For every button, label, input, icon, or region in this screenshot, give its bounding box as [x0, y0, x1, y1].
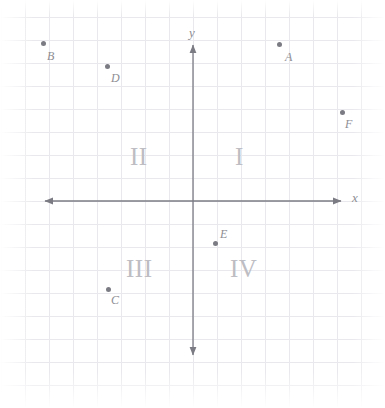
plot-point-c [106, 287, 111, 292]
axes [0, 0, 385, 408]
quadrant-label-iii: III [126, 256, 152, 281]
plot-point-label-c: C [111, 294, 119, 306]
plot-point-label-e: E [220, 228, 227, 240]
plot-point-f [340, 110, 345, 115]
coordinate-plane-figure: x y I II III IV ABCDEF [0, 0, 385, 408]
plot-point-b [41, 41, 46, 46]
plot-point-e [213, 241, 218, 246]
plot-point-label-a: A [285, 51, 292, 63]
y-axis-label: y [189, 26, 195, 39]
plot-point-label-b: B [47, 50, 54, 62]
plot-point-a [277, 42, 282, 47]
plot-point-label-d: D [111, 72, 120, 84]
quadrant-label-i: I [235, 144, 244, 169]
quadrant-label-iv: IV [230, 256, 257, 281]
plot-point-d [105, 64, 110, 69]
plot-point-label-f: F [345, 118, 352, 130]
x-axis-label: x [352, 191, 358, 204]
quadrant-label-ii: II [130, 144, 148, 169]
axes-svg [0, 0, 385, 408]
